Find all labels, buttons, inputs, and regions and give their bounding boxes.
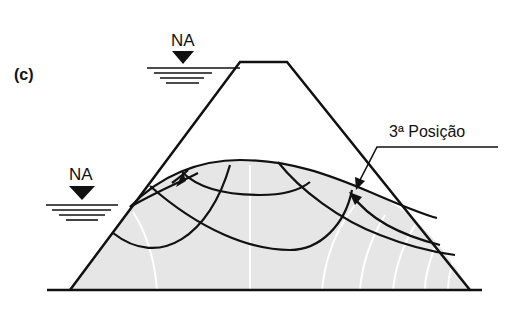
saturated-zone bbox=[70, 160, 470, 290]
water-triangle-icon bbox=[172, 51, 194, 64]
water-level-label-bottom: NA bbox=[69, 165, 93, 184]
water-level-bottom bbox=[46, 186, 118, 220]
water-triangle-icon bbox=[69, 186, 95, 200]
annotation-leader bbox=[360, 147, 498, 180]
water-level-top bbox=[147, 51, 240, 83]
position-annotation: 3ª Posição bbox=[389, 123, 465, 140]
panel-label: (c) bbox=[14, 66, 34, 83]
dam-seepage-diagram: (c) NA NA 3ª Posição bbox=[0, 0, 529, 314]
water-level-label-top: NA bbox=[171, 31, 195, 50]
